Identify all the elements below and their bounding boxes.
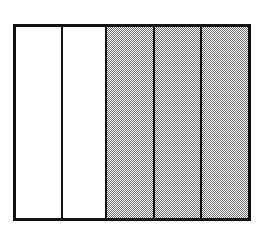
panel-4-shaded bbox=[153, 27, 200, 218]
panel-strip bbox=[16, 27, 248, 218]
figure-root bbox=[0, 0, 263, 235]
panel-2-empty bbox=[61, 27, 105, 218]
panel-3-shaded bbox=[105, 27, 153, 218]
panel-1-empty bbox=[16, 27, 61, 218]
panel-5-shaded bbox=[200, 27, 248, 218]
panel-box bbox=[13, 24, 251, 221]
